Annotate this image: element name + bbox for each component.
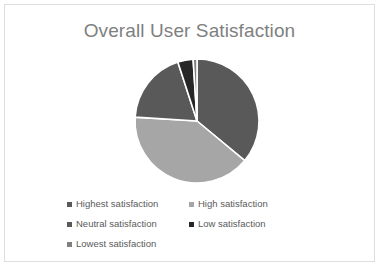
- chart-legend: Highest satisfactionHigh satisfactionNeu…: [67, 194, 317, 254]
- chart-card: Overall User Satisfaction Highest satisf…: [4, 4, 375, 262]
- legend-item-label: Low satisfaction: [198, 218, 266, 230]
- legend-swatch-icon: [189, 202, 194, 207]
- legend-item[interactable]: High satisfaction: [189, 198, 307, 210]
- legend-item-label: Lowest satisfaction: [76, 238, 156, 250]
- chart-title: Overall User Satisfaction: [5, 19, 374, 43]
- legend-swatch-icon: [189, 222, 194, 227]
- pie-slice-group: [135, 59, 259, 183]
- legend-swatch-icon: [67, 222, 72, 227]
- legend-swatch-icon: [67, 242, 72, 247]
- legend-item-label: Highest satisfaction: [76, 198, 158, 210]
- pie-chart-svg: [129, 53, 265, 189]
- legend-item[interactable]: Low satisfaction: [189, 218, 307, 230]
- legend-item-label: Neutral satisfaction: [76, 218, 157, 230]
- pie-chart[interactable]: [129, 53, 265, 189]
- legend-item[interactable]: Highest satisfaction: [67, 198, 189, 210]
- legend-item[interactable]: Lowest satisfaction: [67, 238, 189, 250]
- legend-swatch-icon: [67, 202, 72, 207]
- legend-item-label: High satisfaction: [198, 198, 268, 210]
- legend-item[interactable]: Neutral satisfaction: [67, 218, 189, 230]
